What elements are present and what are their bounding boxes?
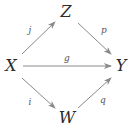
node-y: Y — [116, 58, 127, 74]
node-x: X — [5, 58, 16, 74]
edge-label-p: p — [101, 26, 107, 35]
node-z: Z — [60, 4, 71, 20]
edge-label-q: q — [100, 96, 106, 105]
edge-label-j: j — [29, 26, 32, 35]
arrow-x-to-z — [22, 22, 55, 54]
edge-label-i: i — [29, 98, 32, 107]
commutative-diagram: X Z Y W j p g i q — [0, 0, 131, 132]
arrow-x-to-w — [22, 78, 55, 108]
edge-label-g: g — [64, 54, 70, 63]
node-w: W — [59, 110, 75, 126]
